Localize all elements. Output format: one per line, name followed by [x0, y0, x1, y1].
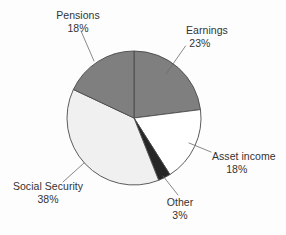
- leader-line-pensions: [81, 31, 94, 61]
- pie-slice-earnings[interactable]: [134, 51, 200, 118]
- pie-chart-figure: Earnings 23% Pensions 18% Asset income 1…: [0, 0, 286, 235]
- pie-label-asset-income-name: Asset income: [212, 150, 276, 162]
- pie-label-social-security: Social Security 38%: [4, 180, 92, 205]
- pie-label-pensions-name: Pensions: [56, 9, 100, 21]
- leader-line-other: [163, 176, 178, 195]
- pie-label-pensions: Pensions 18%: [47, 9, 109, 34]
- pie-label-other-value: 3%: [160, 209, 200, 222]
- pie-label-asset-income-value: 18%: [212, 163, 276, 176]
- pie-label-other-name: Other: [167, 196, 194, 208]
- pie-label-social-security-value: 38%: [4, 193, 92, 206]
- pie-label-social-security-name: Social Security: [13, 180, 83, 192]
- pie-label-earnings-name: Earnings: [186, 24, 228, 36]
- pie-slices: [67, 51, 201, 185]
- pie-label-earnings-value: 23%: [186, 37, 228, 50]
- pie-label-other: Other 3%: [160, 196, 200, 221]
- pie-label-asset-income: Asset income 18%: [212, 150, 276, 175]
- pie-label-earnings: Earnings 23%: [186, 24, 228, 49]
- pie-label-pensions-value: 18%: [47, 22, 109, 35]
